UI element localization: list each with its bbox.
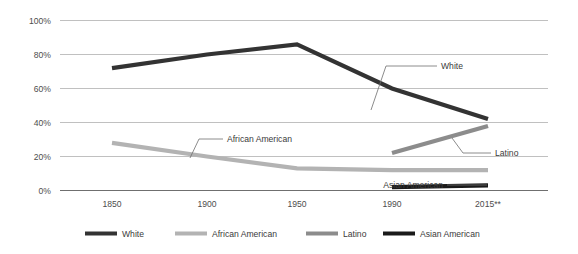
x-tick-1900: 1900 [197,199,216,209]
annotation-latino: Latino [452,138,519,158]
x-tick-2015: 2015** [475,199,501,209]
annotation-label-asian-american: Asian American [383,180,443,190]
annotation-leader-white [371,66,437,110]
chart-legend: White African American Latino Asian Amer… [85,229,480,239]
legend-label-asian-american: Asian American [420,229,480,239]
legend-label-white: White [122,229,144,239]
series-line-white [112,44,488,119]
annotation-label-white: White [441,61,463,71]
line-chart: 100% 80% 60% 40% 20% 0% 1850 1900 1950 1… [0,0,578,254]
chart-container: 100% 80% 60% 40% 20% 0% 1850 1900 1950 1… [0,0,578,254]
legend-item-african-american[interactable]: African American [175,229,277,239]
y-tick-60: 60% [34,84,52,94]
legend-item-latino[interactable]: Latino [306,229,367,239]
y-tick-80: 80% [34,50,52,60]
x-tick-1850: 1850 [102,199,121,209]
annotation-label-african-american: African American [227,134,292,144]
y-tick-40: 40% [34,118,52,128]
y-tick-20: 20% [34,152,52,162]
legend-item-white[interactable]: White [85,229,144,239]
y-tick-0: 0% [39,186,52,196]
y-axis-labels: 100% 80% 60% 40% 20% 0% [29,16,51,196]
series-line-latino [392,126,488,153]
y-tick-100: 100% [29,16,51,26]
annotation-label-latino: Latino [495,148,519,158]
legend-label-african-american: African American [212,229,277,239]
legend-label-latino: Latino [343,229,367,239]
annotation-asian-american: Asian American [383,180,487,190]
x-tick-1990: 1990 [382,199,401,209]
annotation-leader-latino [452,138,491,153]
x-axis-labels: 1850 1900 1950 1990 2015** [102,199,501,209]
legend-item-asian-american[interactable]: Asian American [383,229,480,239]
x-tick-1950: 1950 [287,199,306,209]
